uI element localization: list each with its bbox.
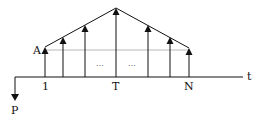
amount-label-a: A bbox=[32, 44, 42, 57]
cash-flow-arrow-last bbox=[186, 48, 193, 77]
cash-flow-diagram: t P A ... ... 1 T N bbox=[0, 0, 265, 120]
arrow-up-icon bbox=[186, 48, 193, 55]
period-label-t: T bbox=[112, 80, 120, 93]
period-label-n: N bbox=[184, 80, 194, 93]
cash-flow-arrow-5 bbox=[145, 25, 152, 77]
present-value-arrow bbox=[11, 77, 19, 101]
arrow-up-icon bbox=[145, 25, 152, 32]
ellipsis-left: ... bbox=[96, 59, 104, 68]
cash-flow-arrow-6 bbox=[167, 37, 174, 77]
ellipsis-right: ... bbox=[128, 59, 136, 68]
cash-flow-arrow-1 bbox=[42, 47, 49, 77]
cash-flow-arrow-2 bbox=[60, 37, 67, 77]
arrow-up-icon bbox=[167, 37, 174, 44]
arrow-down-icon bbox=[11, 94, 19, 101]
present-value-label: P bbox=[11, 104, 19, 117]
cash-flow-arrows bbox=[42, 8, 193, 77]
cash-flow-arrow-peak bbox=[113, 8, 120, 77]
cash-flow-arrow-3 bbox=[82, 25, 89, 77]
arrow-up-icon bbox=[42, 47, 49, 54]
period-label-1: 1 bbox=[42, 80, 49, 93]
time-axis-label: t bbox=[247, 70, 252, 83]
